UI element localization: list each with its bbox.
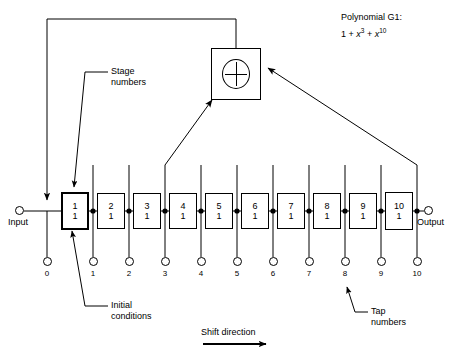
callout-tap-numbers-line1: Tap xyxy=(371,306,406,317)
tap-terminal-9[interactable] xyxy=(377,257,386,266)
tap-label-0: 0 xyxy=(39,269,55,278)
tap-label-7: 7 xyxy=(301,269,317,278)
stage-box-6: 6 1 xyxy=(241,193,269,229)
stage-number-8: 8 xyxy=(324,201,329,211)
input-label: Input xyxy=(8,217,28,228)
polynomial-expression: 1 + x3 + x10 xyxy=(341,24,402,41)
callout-leaders xyxy=(72,72,368,312)
polynomial-label: Polynomial G1: xyxy=(341,10,402,24)
stage-initial-condition-1: 1 xyxy=(72,211,77,221)
stage-initial-condition-9: 1 xyxy=(360,211,365,221)
stage-box-7: 7 1 xyxy=(277,193,305,229)
tap-terminal-7[interactable] xyxy=(305,257,314,266)
tap3-feed-line xyxy=(165,100,212,165)
tap-terminal-0[interactable] xyxy=(43,257,52,266)
stage-initial-condition-5: 1 xyxy=(216,211,221,221)
tap-label-3: 3 xyxy=(157,269,173,278)
tap-label-9: 9 xyxy=(373,269,389,278)
tap10-feed-line xyxy=(268,68,417,165)
callout-initial-conditions-line2: conditions xyxy=(111,311,152,322)
tap-label-4: 4 xyxy=(193,269,209,278)
callout-initial-conditions: Initial conditions xyxy=(111,300,152,322)
poly-term-1: 1 xyxy=(341,29,346,39)
stage-number-5: 5 xyxy=(216,201,221,211)
input-terminal[interactable] xyxy=(15,206,24,215)
stage-initial-condition-6: 1 xyxy=(252,211,257,221)
stage-initial-condition-4: 1 xyxy=(180,211,185,221)
tap-terminal-5[interactable] xyxy=(233,257,242,266)
stage-initial-condition-8: 1 xyxy=(324,211,329,221)
xor-plus-vertical xyxy=(236,62,237,86)
callout-tap-numbers-line2: numbers xyxy=(371,317,406,328)
stage-number-3: 3 xyxy=(144,201,149,211)
callout-tap-numbers: Tap numbers xyxy=(371,306,406,328)
tap-terminal-1[interactable] xyxy=(89,257,98,266)
stage-initial-condition-7: 1 xyxy=(288,211,293,221)
tap-label-1: 1 xyxy=(85,269,101,278)
tap-label-6: 6 xyxy=(265,269,281,278)
stage-number-1: 1 xyxy=(72,201,77,211)
stage-box-3: 3 1 xyxy=(133,193,161,229)
stage-box-10: 10 1 xyxy=(385,192,413,230)
output-terminal[interactable] xyxy=(424,206,433,215)
callout-stage-numbers-line1: Stage xyxy=(111,66,146,77)
polynomial-annotation: Polynomial G1: 1 + x3 + x10 xyxy=(341,10,402,41)
xor-adder xyxy=(211,48,261,100)
shift-direction-label: Shift direction xyxy=(201,327,256,338)
stage-number-4: 4 xyxy=(180,201,185,211)
tap-label-10: 10 xyxy=(409,269,425,278)
poly-exp-3: 10 xyxy=(379,27,386,34)
stage-initial-condition-3: 1 xyxy=(144,211,149,221)
lfsr-diagram: Polynomial G1: 1 + x3 + x10 1 1 2 1 3 1 … xyxy=(0,0,463,361)
callout-initial-conditions-line1: Initial xyxy=(111,300,152,311)
output-label: Output xyxy=(417,217,444,228)
poly-exp-2: 3 xyxy=(361,27,365,34)
callout-stage-numbers: Stage numbers xyxy=(111,66,146,88)
stage-box-1: 1 1 xyxy=(61,192,89,230)
stage-initial-condition-2: 1 xyxy=(108,211,113,221)
poly-plus-1: + xyxy=(349,29,354,39)
callout-stage-numbers-line2: numbers xyxy=(111,77,146,88)
tap-terminal-6[interactable] xyxy=(269,257,278,266)
tap-terminal-8[interactable] xyxy=(341,257,350,266)
stage-box-2: 2 1 xyxy=(97,193,125,229)
stage-box-4: 4 1 xyxy=(169,193,197,229)
stage-number-7: 7 xyxy=(288,201,293,211)
stage-box-5: 5 1 xyxy=(205,193,233,229)
tap-terminal-10[interactable] xyxy=(413,257,422,266)
stage-number-2: 2 xyxy=(108,201,113,211)
stage-number-10: 10 xyxy=(394,201,404,211)
poly-plus-2: + xyxy=(367,29,372,39)
stage-number-6: 6 xyxy=(252,201,257,211)
stage-box-9: 9 1 xyxy=(349,193,377,229)
stage-box-8: 8 1 xyxy=(313,193,341,229)
stage-number-9: 9 xyxy=(360,201,365,211)
tap-terminal-2[interactable] xyxy=(125,257,134,266)
tap-terminal-3[interactable] xyxy=(161,257,170,266)
tap-label-2: 2 xyxy=(121,269,137,278)
tap-label-8: 8 xyxy=(337,269,353,278)
tap-terminal-4[interactable] xyxy=(197,257,206,266)
stage-initial-condition-10: 1 xyxy=(396,211,401,221)
tap-label-5: 5 xyxy=(229,269,245,278)
